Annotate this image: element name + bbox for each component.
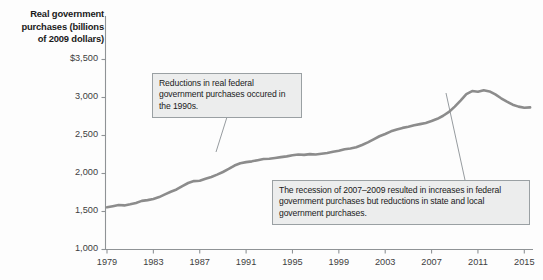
x-axis-tick-label: 1999 bbox=[314, 257, 364, 267]
annotation-callout-1990s: Reductions in real federal government pu… bbox=[152, 73, 302, 118]
x-axis-tick-label: 2011 bbox=[453, 257, 503, 267]
y-axis-ticks bbox=[102, 60, 106, 250]
x-axis-tick-label: 2007 bbox=[407, 257, 457, 267]
x-axis-tick-label: 1983 bbox=[128, 257, 178, 267]
chart-container: Real government purchases (billions of 2… bbox=[0, 0, 543, 280]
x-axis-tick-label: 1991 bbox=[221, 257, 271, 267]
y-axis-tick-label: 1,000 bbox=[30, 243, 98, 253]
annotation-leader-line bbox=[216, 117, 227, 152]
y-axis-tick-label: 2,000 bbox=[30, 167, 98, 177]
x-axis-tick-label: 1995 bbox=[267, 257, 317, 267]
x-axis-tick-label: 2015 bbox=[499, 257, 543, 267]
chart-plot-area bbox=[0, 0, 543, 280]
x-axis-tick-label: 1979 bbox=[82, 257, 132, 267]
x-axis-tick-label: 2003 bbox=[360, 257, 410, 267]
x-axis-tick-label: 1987 bbox=[175, 257, 225, 267]
x-axis-ticks bbox=[107, 250, 524, 254]
y-axis-tick-label: 2,500 bbox=[30, 129, 98, 139]
y-axis-tick-label: $3,500 bbox=[30, 53, 98, 63]
y-axis-tick-label: 1,500 bbox=[30, 205, 98, 215]
annotation-callout-recession: The recession of 2007–2009 resulted in i… bbox=[272, 180, 530, 225]
y-axis-tick-label: 3,000 bbox=[30, 91, 98, 101]
